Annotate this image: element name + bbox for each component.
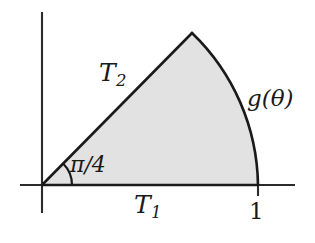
label-g-theta: g(θ) — [247, 87, 294, 110]
figure-container: T2 T1 g(θ) π/4 1 — [0, 0, 315, 243]
label-x-tick-one: 1 — [249, 200, 264, 223]
label-T1: T1 — [134, 192, 162, 222]
label-T1-subscript: 1 — [151, 203, 162, 222]
label-T1-base: T — [134, 190, 151, 219]
label-T2-base: T — [99, 58, 116, 87]
label-angle-pi-over-4: π/4 — [70, 154, 106, 176]
label-T2: T2 — [99, 60, 127, 90]
label-T2-subscript: 2 — [116, 71, 127, 90]
